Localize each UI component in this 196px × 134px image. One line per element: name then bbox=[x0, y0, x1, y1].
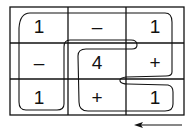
cell-r3c2: + bbox=[91, 87, 102, 108]
cell-r3c1: 1 bbox=[34, 87, 45, 108]
cell-r2c1: – bbox=[34, 52, 45, 73]
cell-values: 1 – 1 – 4 + 1 + 1 bbox=[34, 16, 161, 108]
cell-r1c3: 1 bbox=[150, 16, 161, 37]
cell-r2c2: 4 bbox=[92, 52, 103, 73]
puzzle-diagram: 1 – 1 – 4 + 1 + 1 bbox=[0, 0, 196, 134]
cell-r2c3: + bbox=[149, 52, 160, 73]
cell-r1c1: 1 bbox=[34, 16, 45, 37]
arrow-left-icon bbox=[134, 122, 182, 128]
cell-r3c3: 1 bbox=[150, 87, 161, 108]
cell-r1c2: – bbox=[92, 16, 103, 37]
